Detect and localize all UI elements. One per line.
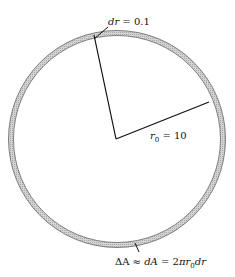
radius-line-upper bbox=[94, 35, 116, 139]
area-label: ΔA ≈ dA = 2πr0dr bbox=[115, 256, 207, 270]
radius-label: r0 = 10 bbox=[150, 130, 187, 144]
annulus-diagram: dr = 0.1 r0 = 10 ΔA ≈ dA = 2πr0dr bbox=[0, 0, 235, 277]
dr-label: dr = 0.1 bbox=[108, 16, 150, 27]
